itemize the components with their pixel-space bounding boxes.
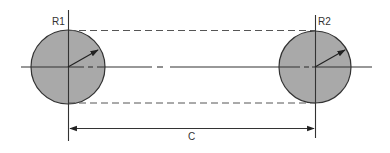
two-circle-diagram: R1 R2 C bbox=[0, 0, 390, 153]
label-c: C bbox=[188, 131, 195, 142]
label-r2: R2 bbox=[318, 16, 331, 27]
label-r1: R1 bbox=[52, 16, 65, 27]
